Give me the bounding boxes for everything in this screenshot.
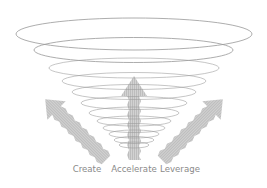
- arrow-leverage: [153, 90, 232, 169]
- vortex-ring: [49, 58, 219, 78]
- label-create: Create: [73, 164, 102, 174]
- arrows-group: [36, 76, 232, 169]
- vortex-ring: [16, 18, 252, 50]
- arrow-create: [36, 90, 115, 169]
- label-leverage: Leverage: [160, 164, 200, 174]
- vortex-diagram: Create Accelerate Leverage: [0, 0, 267, 188]
- label-accelerate: Accelerate: [111, 164, 157, 174]
- vortex-graphic: [0, 0, 267, 188]
